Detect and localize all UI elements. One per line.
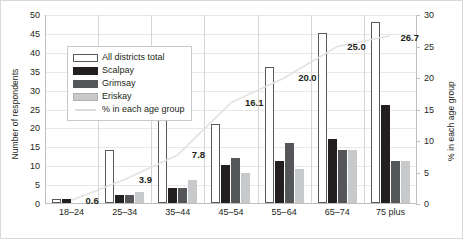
legend-item[interactable]: Eriskay <box>73 90 185 103</box>
x-axis-tick-label: 65–74 <box>311 207 364 217</box>
legend-item-label: Grimsay <box>102 79 136 88</box>
y-axis-right-tick-label: 15 <box>424 106 434 115</box>
chart-legend: All districts totalScalpayGrimsayEriskay… <box>67 46 192 121</box>
percent-data-label: 3.9 <box>139 174 152 185</box>
legend-item[interactable]: % in each age group <box>73 103 185 116</box>
x-axis-tick-label: 55–64 <box>258 207 311 217</box>
percent-data-label: 20.0 <box>298 72 317 83</box>
legend-item[interactable]: All districts total <box>73 51 185 64</box>
percent-data-label: 16.1 <box>245 97 264 108</box>
y-axis-left-tick-label: 0 <box>35 200 40 209</box>
y-axis-right-tick-label: 10 <box>424 137 434 146</box>
y-axis-left-tick-label: 30 <box>30 87 40 96</box>
y-axis-right-title: % in each age group <box>446 66 456 176</box>
percent-data-label: 26.7 <box>400 32 419 43</box>
legend-swatch-total-icon <box>73 54 98 62</box>
y-axis-right-tick-label: 0 <box>424 200 429 209</box>
y-axis-right-tick-label: 30 <box>424 11 434 20</box>
percent-data-label: 7.8 <box>192 149 205 160</box>
percent-data-label: 25.0 <box>347 41 366 52</box>
legend-swatch-scalpay-icon <box>73 67 98 75</box>
legend-item-label: Scalpay <box>102 66 134 75</box>
y-axis-left-tick-label: 50 <box>30 11 40 20</box>
y-axis-left-tick-label: 35 <box>30 68 40 77</box>
legend-swatch-grimsay-icon <box>73 80 98 88</box>
y-axis-left-tick-label: 10 <box>30 162 40 171</box>
y-axis-left-title: Number of respondents <box>10 59 20 169</box>
legend-item-label: % in each age group <box>102 105 185 114</box>
y-axis-right-tick-label: 25 <box>424 43 434 52</box>
y-axis-left-tick-label: 20 <box>30 124 40 133</box>
legend-item-label: All districts total <box>102 53 165 62</box>
y-axis-left-tick-label: 40 <box>30 49 40 58</box>
y-axis-right-tickmark <box>416 204 420 205</box>
legend-swatch-eriskay-icon <box>73 93 98 101</box>
x-axis-tick-label: 25–34 <box>98 207 151 217</box>
y-axis-left-tick-label: 25 <box>30 106 40 115</box>
legend-item-label: Eriskay <box>102 92 132 101</box>
y-axis-left-tick-label: 5 <box>35 181 40 190</box>
y-axis-left-tick-label: 15 <box>30 143 40 152</box>
legend-swatch-line-icon <box>73 106 98 114</box>
legend-item[interactable]: Grimsay <box>73 77 185 90</box>
x-axis-tick-label: 75 plus <box>364 207 417 217</box>
x-axis-tick-label: 35–44 <box>151 207 204 217</box>
percent-data-label: 0.6 <box>86 195 99 206</box>
y-axis-right-tick-label: 20 <box>424 74 434 83</box>
x-axis-tick-label: 45–54 <box>204 207 257 217</box>
legend-item[interactable]: Scalpay <box>73 64 185 77</box>
x-axis-tick-label: 18–24 <box>45 207 98 217</box>
chart-container: Number of respondents % in each age grou… <box>0 0 463 239</box>
y-axis-right-tick-label: 5 <box>424 169 429 178</box>
y-axis-left-tick-label: 45 <box>30 30 40 39</box>
